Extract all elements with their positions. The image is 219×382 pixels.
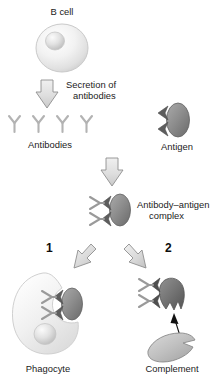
b-cell-label: B cell <box>51 6 74 17</box>
complex-antigen-body <box>110 194 131 226</box>
branch-arrow-left <box>74 244 96 268</box>
antigen-label: Antigen <box>161 141 193 152</box>
complement-attach-arrow-head <box>171 313 179 324</box>
antibody-4 <box>81 116 92 132</box>
antibody-2 <box>33 116 44 132</box>
complement-label: Complement <box>145 363 199 374</box>
antigen-body <box>167 103 190 137</box>
antibodies-group <box>9 116 92 132</box>
branch-arrow-right <box>124 244 146 268</box>
antibody-3 <box>57 116 68 132</box>
complex-label-line2: complex <box>149 210 184 221</box>
antigen-notch-upper <box>158 106 168 120</box>
branch-two-number: 2 <box>165 241 172 255</box>
phagocyte-engulfed-antigen <box>62 288 83 320</box>
secretion-label-line1: Secretion of <box>66 79 116 90</box>
complement-antibody-upper <box>139 279 153 291</box>
antigen-notch-lower <box>158 122 168 136</box>
phagocyte-label: Phagocyte <box>26 363 70 374</box>
phagocyte-nucleus <box>34 324 56 345</box>
complement-antigen-body <box>159 278 184 310</box>
secretion-label-line2: antibodies <box>73 90 116 101</box>
secretion-arrow <box>36 80 58 108</box>
b-cell-body <box>36 24 88 72</box>
b-cell-nucleus <box>46 32 65 50</box>
complex-antibody-upper <box>90 197 104 209</box>
antibody-1 <box>9 116 20 132</box>
binding-arrow <box>101 158 123 186</box>
antigen-group <box>158 103 190 137</box>
complement-antibody-lower <box>139 295 153 307</box>
antibodies-label: Antibodies <box>28 139 72 150</box>
branch-one-number: 1 <box>46 241 53 255</box>
diagram-canvas: B cell Secretion of antibodies <box>0 0 219 382</box>
complex-group <box>90 194 131 226</box>
phagocyte-group <box>12 273 82 354</box>
complex-label-line1: Antibody–antigen <box>137 199 209 210</box>
complement-branch-group <box>139 278 195 362</box>
complement-blade <box>148 333 195 362</box>
immune-response-diagram: B cell Secretion of antibodies <box>0 0 219 382</box>
complex-antibody-lower <box>90 213 104 225</box>
b-cell-group <box>36 24 88 72</box>
